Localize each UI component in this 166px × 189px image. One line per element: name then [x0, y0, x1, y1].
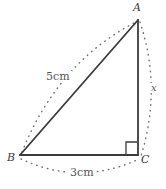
vertex-label-a: A	[133, 2, 141, 13]
geometry-figure: A B C 5cm 3cm x	[0, 0, 166, 189]
measure-label-side-ac: x	[149, 83, 159, 93]
vertex-label-b: B	[7, 152, 15, 163]
side-ab-hypotenuse	[20, 20, 138, 155]
measure-label-side-bc: 3cm	[68, 167, 96, 178]
vertex-label-c: C	[141, 154, 149, 165]
measure-label-side-ab: 5cm	[44, 71, 72, 82]
right-angle-marker	[126, 142, 137, 154]
